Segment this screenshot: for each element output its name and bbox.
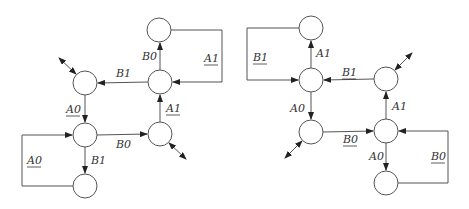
edge-label: B1: [341, 66, 357, 79]
edge-label: A1: [315, 47, 331, 60]
edge-label: A0: [289, 102, 305, 115]
edge-label: B1: [252, 51, 268, 64]
edge-label: B0: [141, 50, 157, 63]
edge-label: A1: [165, 102, 181, 115]
edge-b1-left: [98, 82, 148, 83]
left-state-diagram: B0 A1 B1 A0 A1 B0 A0 B1: [22, 18, 222, 198]
edge-b0-right: [97, 134, 147, 135]
io-arrow-icon: [59, 58, 76, 74]
edge-label: B0: [115, 138, 131, 151]
state-node: [73, 174, 97, 198]
io-arrow-icon: [169, 143, 186, 159]
state-node: [73, 71, 97, 95]
state-node: [299, 120, 323, 144]
state-node: [73, 123, 97, 147]
edge-b0-right: [323, 131, 373, 132]
io-arrow-icon: [395, 53, 412, 70]
edge-label: A0: [26, 154, 42, 167]
state-node: [299, 16, 323, 40]
state-node: [148, 122, 172, 146]
edge-label: A0: [65, 103, 81, 116]
right-state-diagram: A1 B1 B1 A0 A1 B0 A0 B0: [247, 16, 448, 195]
io-arrow-icon: [285, 141, 302, 158]
state-node: [374, 67, 398, 91]
state-node: [374, 171, 398, 195]
edge-label: B1: [115, 67, 131, 80]
state-node: [299, 68, 323, 92]
edge-label: B1: [90, 154, 106, 167]
edge-label: A1: [391, 100, 407, 113]
edge-label: B0: [342, 133, 358, 146]
state-node: [148, 70, 172, 94]
state-node: [147, 18, 171, 42]
state-diagrams: B0 A1 B1 A0 A1 B0 A0 B1 A1 B1 B1 A0: [0, 0, 469, 209]
edge-label: A0: [368, 150, 384, 163]
edge-label: A1: [203, 52, 219, 65]
state-node: [374, 119, 398, 143]
edge-label: B0: [430, 150, 446, 163]
